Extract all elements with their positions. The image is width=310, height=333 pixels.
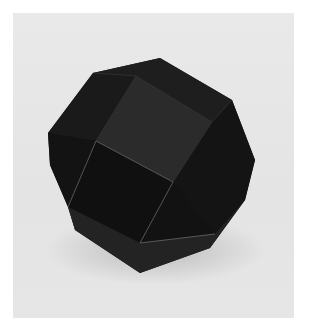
photo	[13, 13, 294, 318]
polyhedron-model	[0, 0, 310, 333]
